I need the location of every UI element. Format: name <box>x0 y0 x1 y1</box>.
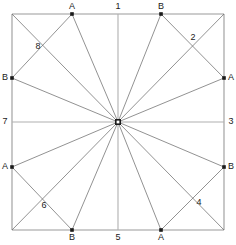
ray-to-corner-bl <box>12 122 118 230</box>
node-dot-top-B <box>159 12 163 16</box>
axis-label-7: 7 <box>2 116 7 126</box>
ray-to-corner-tr <box>118 14 224 122</box>
node-dot-bottom-B <box>70 228 74 232</box>
node-dot-bottom-A <box>159 228 163 232</box>
node-label-bottom-A: A <box>158 232 164 242</box>
axis-label-1: 1 <box>115 1 120 11</box>
center-point-hole <box>117 121 120 124</box>
node-label-bottom-B: B <box>69 232 75 242</box>
crossing-label-8: 8 <box>35 41 40 51</box>
node-dot-left-B <box>10 76 14 80</box>
ray-to-corner-br <box>118 122 224 230</box>
node-label-left-A: A <box>2 161 8 171</box>
crossing-label-6: 6 <box>41 200 46 210</box>
node-dot-left-A <box>10 165 14 169</box>
ray-to-right-A <box>118 78 224 122</box>
ray-to-right-B <box>118 122 224 167</box>
geometric-diagram-canvas: ABABBAAB 1357 2468 <box>0 0 236 245</box>
node-label-top-B: B <box>158 1 164 11</box>
center-point-group <box>115 119 121 125</box>
node-dot-right-A <box>222 76 226 80</box>
node-label-right-B: B <box>228 161 234 171</box>
diagram-svg: ABABBAAB 1357 2468 <box>0 0 236 245</box>
node-label-right-A: A <box>228 72 234 82</box>
ray-to-bottom-A <box>118 122 161 230</box>
axis-label-3: 3 <box>228 116 233 126</box>
node-dot-right-B <box>222 165 226 169</box>
ray-to-corner-tl <box>12 14 118 122</box>
crossing-label-2: 2 <box>190 32 195 42</box>
node-dot-top-A <box>70 12 74 16</box>
ray-to-top-B <box>118 14 161 122</box>
axis-label-5: 5 <box>115 232 120 242</box>
crossing-label-4: 4 <box>196 197 201 207</box>
node-label-left-B: B <box>2 72 8 82</box>
node-label-top-A: A <box>69 1 75 11</box>
